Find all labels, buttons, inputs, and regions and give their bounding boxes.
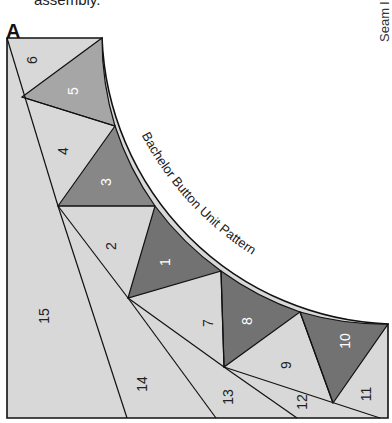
piece-label-8: 8 <box>239 317 255 325</box>
piece-label-14: 14 <box>134 376 150 392</box>
piece-label-9: 9 <box>278 361 294 369</box>
pattern-diagram: 6 5 4 3 2 1 7 8 9 10 11 12 13 14 15 Bach… <box>0 0 392 423</box>
piece-label-5: 5 <box>65 87 81 95</box>
piece-label-15: 15 <box>36 308 52 324</box>
piece-label-11: 11 <box>358 387 374 402</box>
piece-label-6: 6 <box>24 56 40 64</box>
piece-label-3: 3 <box>98 178 114 186</box>
piece-label-2: 2 <box>103 242 119 250</box>
piece-label-12: 12 <box>294 394 310 410</box>
piece-label-1: 1 <box>157 258 173 266</box>
piece-label-4: 4 <box>55 147 71 155</box>
pattern-figure: assembly. Seam l A 6 <box>0 0 392 423</box>
piece-label-7: 7 <box>200 319 216 327</box>
piece-label-10: 10 <box>337 333 353 349</box>
piece-label-13: 13 <box>220 389 236 405</box>
